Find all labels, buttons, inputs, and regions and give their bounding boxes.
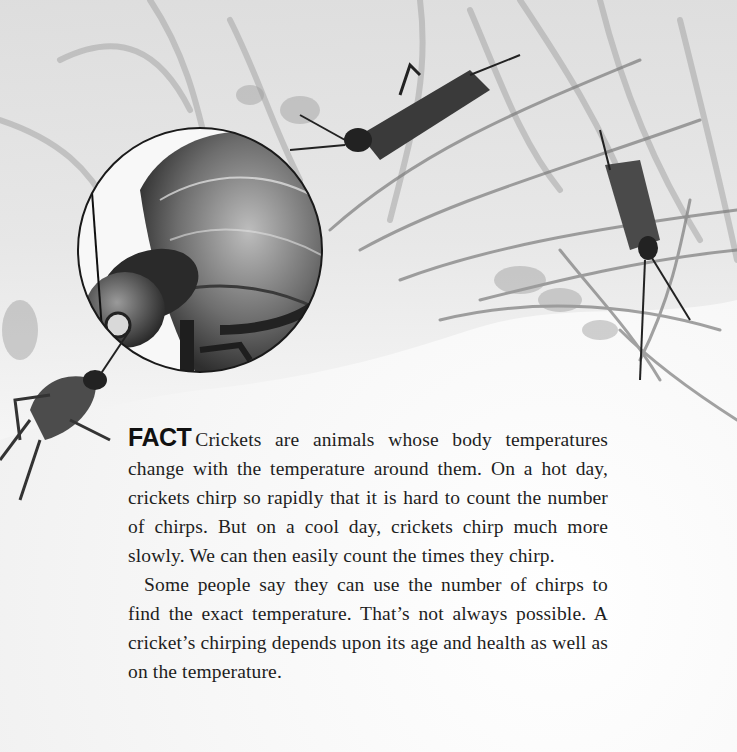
paragraph-1-text: Crickets are animals whose body temperat… (128, 429, 608, 566)
fact-article: FACTCrickets are animals whose body temp… (128, 423, 608, 686)
book-page: FACTCrickets are animals whose body temp… (0, 0, 737, 752)
paragraph-1: FACTCrickets are animals whose body temp… (128, 423, 608, 570)
paragraph-2: Some people say they can use the number … (128, 570, 608, 686)
fact-label: FACT (128, 423, 191, 451)
